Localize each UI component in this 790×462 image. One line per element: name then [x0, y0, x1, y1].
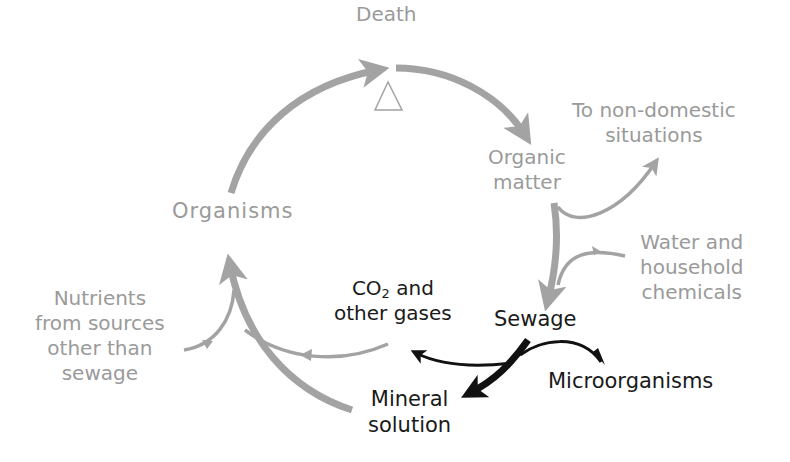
node-water-household: Water and household chemicals — [640, 230, 743, 305]
arrow-water-to-sewage — [558, 252, 625, 285]
arrow-microorganisms-to-sewage — [520, 342, 601, 362]
organic-matter-line1: Organic — [488, 145, 566, 170]
sewage-cycle-diagram: Death Organic matter To non-domestic sit… — [0, 0, 790, 462]
node-co2-gases: CO2 and other gases — [334, 276, 452, 326]
node-death: Death — [356, 2, 416, 27]
node-nutrients-other: Nutrients from sources other than sewage — [35, 286, 165, 386]
node-mineral-solution: Mineral solution — [368, 386, 451, 439]
water-line2: household — [640, 255, 743, 280]
nutrients-line4: sewage — [35, 361, 165, 386]
non-domestic-line2: situations — [572, 123, 736, 148]
mineral-line2: solution — [368, 412, 451, 438]
co2-line1: CO2 and — [334, 276, 452, 301]
death-triangle-icon — [375, 82, 402, 110]
co2-rest: and — [390, 276, 434, 300]
water-line1: Water and — [640, 230, 743, 255]
water-line3: chemicals — [640, 280, 743, 305]
mineral-line1: Mineral — [368, 386, 451, 412]
microorganisms-label: Microorganisms — [548, 369, 713, 393]
arrow-organisms-to-death — [231, 70, 378, 193]
co2-main: CO — [352, 276, 382, 300]
co2-subscript: 2 — [382, 286, 390, 301]
node-sewage: Sewage — [494, 306, 577, 332]
node-to-non-domestic: To non-domestic situations — [572, 98, 736, 148]
arrow-organic-to-non-domestic — [558, 163, 655, 217]
node-microorganisms: Microorganisms — [548, 368, 713, 394]
organic-matter-line2: matter — [488, 170, 566, 195]
nutrients-line3: other than — [35, 336, 165, 361]
arrow-organic-to-sewage — [548, 203, 557, 300]
co2-line2: other gases — [334, 301, 452, 326]
death-label: Death — [356, 2, 416, 26]
node-organic-matter: Organic matter — [488, 145, 566, 195]
non-domestic-line1: To non-domestic — [572, 98, 736, 123]
co2-arrowhead-icon — [300, 349, 312, 361]
organisms-label: Organisms — [172, 199, 293, 223]
sewage-label: Sewage — [494, 307, 577, 331]
arrow-death-to-organic-matter — [396, 68, 525, 135]
node-organisms: Organisms — [172, 198, 293, 224]
arrow-sewage-to-co2 — [416, 353, 512, 365]
nutrients-line1: Nutrients — [35, 286, 165, 311]
nutrients-line2: from sources — [35, 311, 165, 336]
